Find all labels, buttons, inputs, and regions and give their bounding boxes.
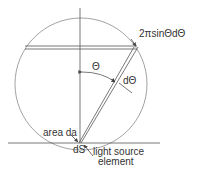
area-da-label: area da: [43, 128, 77, 138]
ring-area-label: 2πsinΘdΘ: [139, 29, 185, 39]
element-label: element: [98, 157, 134, 167]
theta-label: Θ: [92, 62, 100, 72]
theta-arc: [82, 72, 115, 82]
diagram-canvas: 2πsinΘdΘ Θ dΘ area da dS light source el…: [0, 0, 198, 177]
ray-inner: [79, 47, 134, 143]
source-pointer: [84, 145, 93, 156]
ring-pointer: [131, 39, 136, 46]
ds-label: dS: [73, 145, 85, 155]
dtheta-label: dΘ: [123, 76, 136, 86]
